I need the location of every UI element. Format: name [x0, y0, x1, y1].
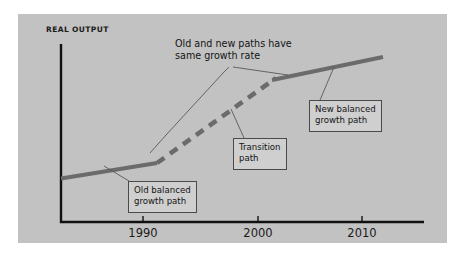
old-growth-path-line: [61, 163, 157, 179]
callout-new-growth-path-line1: New balanced: [315, 104, 376, 115]
x-tick-label-2000: 2000: [243, 226, 272, 240]
callout-old-growth-path-line1: Old balanced: [134, 185, 191, 196]
callout-transition-path-line2: path: [239, 153, 281, 164]
leader-line-transition-box: [231, 109, 244, 138]
annotation-same-growth-rate: Old and new paths have same growth rate: [175, 38, 292, 63]
callout-old-growth-path: Old balanced growth path: [128, 181, 197, 213]
annotation-same-growth-rate-line2: same growth rate: [175, 50, 292, 62]
leader-line-new-path-box: [320, 67, 334, 100]
annotation-same-growth-rate-line1: Old and new paths have: [175, 38, 292, 50]
x-tick-label-1990: 1990: [128, 226, 157, 240]
callout-transition-path-line1: Transition: [239, 142, 281, 153]
leader-line-top-note-new: [233, 67, 288, 75]
callout-transition-path: Transition path: [233, 138, 287, 170]
diagram-stage: REAL OUTPUT 1990 2000 2010 Old and new p…: [0, 0, 470, 261]
x-tick-label-2010: 2010: [347, 226, 376, 240]
callout-new-growth-path-line2: growth path: [315, 115, 376, 126]
y-axis-title: REAL OUTPUT: [46, 25, 109, 34]
axis-lines: [61, 44, 424, 222]
callout-new-growth-path: New balanced growth path: [309, 100, 382, 132]
callout-old-growth-path-line2: growth path: [134, 196, 191, 207]
